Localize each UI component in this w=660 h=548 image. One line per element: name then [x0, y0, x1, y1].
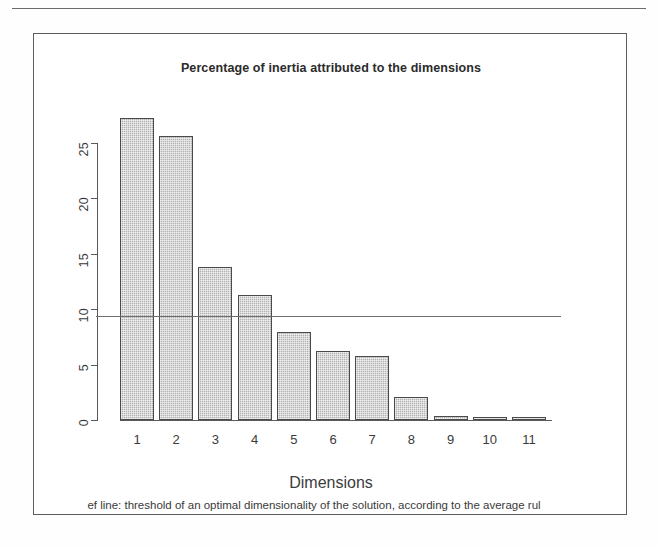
- y-axis-tick: [91, 143, 98, 144]
- x-axis-tick-label: 11: [509, 432, 549, 447]
- y-axis-tick-label: 10: [77, 308, 91, 323]
- y-axis-tick-label: 5: [77, 364, 91, 371]
- bar-dimension-3: [198, 267, 232, 420]
- x-axis-tick-label: 6: [313, 432, 353, 447]
- x-axis-tick-label: 5: [274, 432, 314, 447]
- y-axis-line: [97, 143, 98, 421]
- bar-dimension-7: [355, 356, 389, 420]
- y-axis-tick: [91, 254, 98, 255]
- y-axis-tick: [91, 198, 98, 199]
- figure-caption-text: ef line: threshold of an optimal dimensi…: [87, 499, 540, 511]
- page-top-rule: [12, 8, 646, 9]
- x-axis-tick-label: 9: [431, 432, 471, 447]
- y-axis-tick-label: 15: [77, 253, 91, 268]
- x-axis-title: Dimensions: [34, 474, 628, 492]
- figure-caption: ef line: threshold of an optimal dimensi…: [34, 499, 628, 511]
- bar-dimension-11: [512, 417, 546, 420]
- bar-dimension-8: [394, 397, 428, 420]
- average-rule-reference-line: [96, 316, 561, 317]
- bar-dimension-4: [238, 295, 272, 420]
- y-axis-tick-label: 25: [77, 142, 91, 157]
- x-axis-tick-label: 2: [156, 432, 196, 447]
- y-axis-tick: [91, 365, 98, 366]
- figure-frame: Percentage of inertia attributed to the …: [33, 33, 627, 515]
- bar-dimension-5: [277, 332, 311, 420]
- bar-dimension-9: [434, 416, 468, 420]
- x-axis-tick-label: 8: [391, 432, 431, 447]
- x-axis-line: [120, 420, 552, 421]
- y-axis-tick-label: 0: [77, 419, 91, 426]
- y-axis-tick-label: 20: [77, 197, 91, 212]
- y-axis-tick: [91, 420, 98, 421]
- x-axis-tick-label: 3: [195, 432, 235, 447]
- bar-dimension-2: [159, 136, 193, 420]
- y-axis-tick: [91, 309, 98, 310]
- x-axis-tick-label: 1: [117, 432, 157, 447]
- plot-area: 0510152025 1234567891011: [34, 34, 628, 516]
- x-axis-tick-label: 7: [352, 432, 392, 447]
- x-axis-tick-label: 10: [470, 432, 510, 447]
- bar-dimension-10: [473, 417, 507, 420]
- bar-dimension-1: [120, 118, 154, 420]
- scanned-page: Percentage of inertia attributed to the …: [0, 0, 660, 548]
- bar-dimension-6: [316, 351, 350, 420]
- x-axis-tick-label: 4: [235, 432, 275, 447]
